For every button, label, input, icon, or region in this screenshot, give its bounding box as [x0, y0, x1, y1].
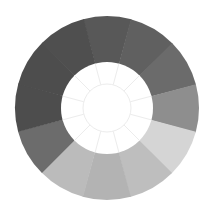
segmented-ring-diagram: [0, 0, 211, 215]
inner-ring-outline: [83, 84, 131, 132]
